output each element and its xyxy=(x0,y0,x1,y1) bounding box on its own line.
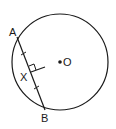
label-b: B xyxy=(41,112,48,124)
perpendicular-segment xyxy=(31,67,45,72)
geometry-diagram: A B X O xyxy=(0,0,116,129)
label-x: X xyxy=(20,71,28,83)
label-a: A xyxy=(9,26,17,38)
center-point xyxy=(58,60,62,64)
label-o: O xyxy=(63,56,72,68)
right-angle-mark xyxy=(29,64,36,70)
